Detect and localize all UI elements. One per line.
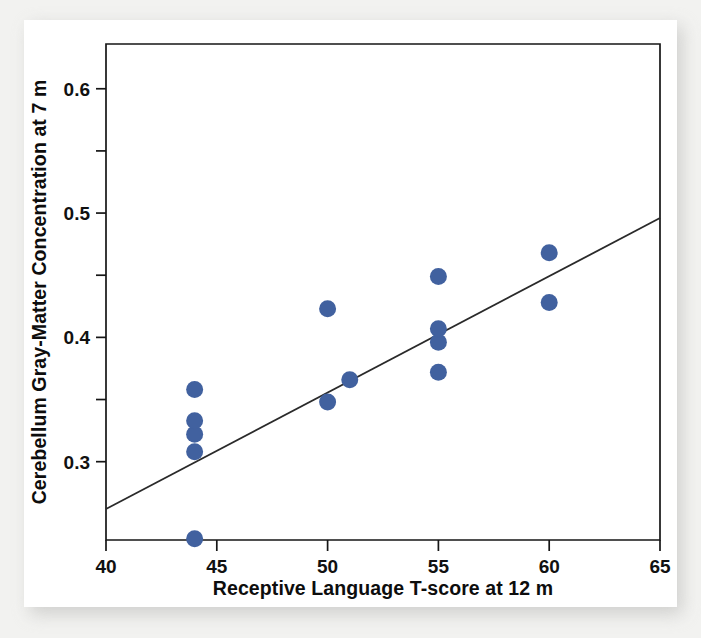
x-tick-label: 65 [649,556,671,577]
data-point [541,294,558,311]
figure-page: 0.30.40.50.6 404550556065 Receptive Lang… [0,0,701,638]
regression-line [106,218,660,509]
data-point [186,381,203,398]
y-tick-label: 0.5 [64,203,91,224]
data-point [186,443,203,460]
x-tick-label: 60 [539,556,560,577]
x-axis-tick-labels: 404550556065 [95,556,671,577]
data-point [430,364,447,381]
x-axis-title: Receptive Language T-score at 12 m [213,577,553,599]
fit-line [106,218,660,509]
x-tick-label: 40 [95,556,116,577]
x-tick-label: 55 [428,556,450,577]
scatter-plot: 0.30.40.50.6 404550556065 Receptive Lang… [0,0,701,638]
y-axis-ticks [96,89,106,462]
data-point [186,530,203,547]
y-tick-label: 0.6 [64,79,90,100]
data-point [186,412,203,429]
y-tick-label: 0.3 [64,452,90,473]
data-point [319,300,336,317]
data-point [430,320,447,337]
x-tick-label: 45 [206,556,228,577]
data-point [319,394,336,411]
y-axis-title: Cerebellum Gray-Matter Concentration at … [28,80,50,505]
data-point [341,371,358,388]
data-point [541,244,558,261]
data-points [186,244,558,547]
data-point [430,268,447,285]
y-tick-label: 0.4 [64,327,91,348]
y-axis-tick-labels: 0.30.40.50.6 [64,79,91,473]
x-tick-label: 50 [317,556,338,577]
